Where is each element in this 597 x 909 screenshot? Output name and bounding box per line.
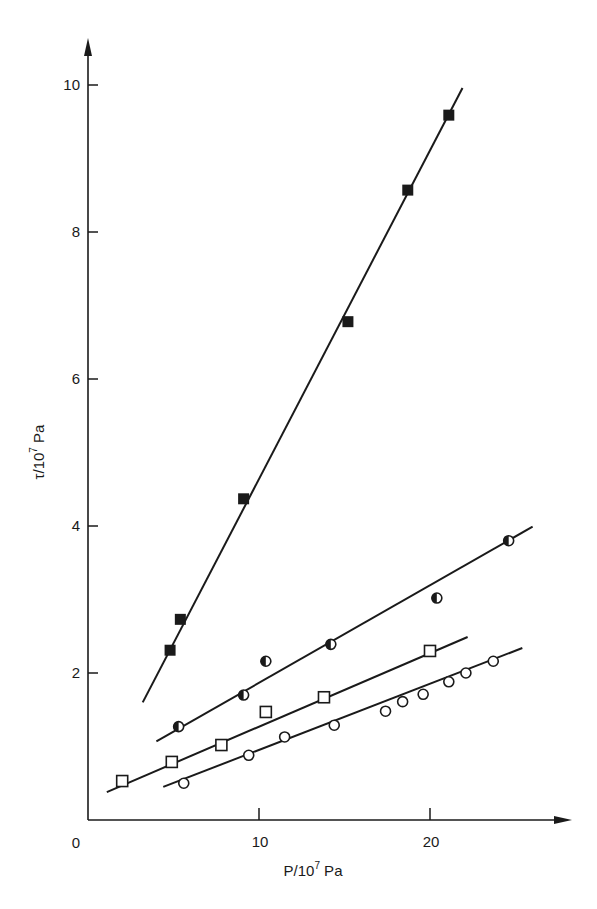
x-axis-title-unit: Pa (320, 862, 343, 879)
y-axis-title: τ/107 Pa (28, 424, 47, 480)
open-square-marker-icon (166, 756, 177, 767)
open-square-marker-icon (117, 776, 128, 787)
y-tick-label: 6 (72, 370, 80, 387)
y-tick-label: 2 (72, 664, 80, 681)
x-axis-title: P/107 Pa (284, 860, 344, 879)
y-axis-arrow-icon (84, 38, 92, 56)
shear-strength-vs-pressure-chart: 24681010200P/107 Paτ/107 Pa (0, 0, 597, 909)
axes (84, 38, 572, 824)
data-markers (117, 110, 514, 789)
fit-line (107, 637, 468, 792)
half-filled-circle-marker-icon (326, 639, 336, 649)
y-tick-label: 10 (63, 76, 80, 93)
origin-label: 0 (72, 834, 80, 851)
half-filled-circle-marker-icon (261, 656, 271, 666)
y-axis-title-base: τ/10 (30, 453, 47, 480)
fit-line (143, 88, 463, 702)
filled-square-marker-icon (175, 614, 186, 625)
fit-lines (107, 88, 533, 792)
x-axis-arrow-icon (554, 816, 572, 824)
filled-square-marker-icon (165, 645, 176, 656)
open-circle-marker-icon (488, 656, 498, 666)
open-circle-marker-icon (418, 689, 428, 699)
fit-line (156, 527, 532, 742)
open-circle-marker-icon (444, 677, 454, 687)
half-filled-circle-marker-icon (504, 536, 514, 546)
half-filled-circle-marker-icon (239, 690, 249, 700)
open-square-marker-icon (425, 645, 436, 656)
half-filled-circle-marker-icon (432, 593, 442, 603)
y-axis-title-unit: Pa (30, 424, 47, 447)
open-square-marker-icon (216, 740, 227, 751)
filled-square-marker-icon (402, 185, 413, 196)
filled-square-marker-icon (342, 316, 353, 327)
y-tick-label: 8 (72, 223, 80, 240)
open-circle-marker-icon (381, 706, 391, 716)
open-circle-marker-icon (280, 732, 290, 742)
axis-labels: 24681010200P/107 Paτ/107 Pa (28, 76, 439, 879)
filled-square-marker-icon (238, 493, 249, 504)
y-tick-label: 4 (72, 517, 80, 534)
filled-square-marker-icon (443, 110, 454, 121)
x-tick-label: 20 (423, 833, 440, 850)
x-axis-title-base: P/10 (284, 862, 315, 879)
x-tick-label: 10 (252, 833, 269, 850)
open-circle-marker-icon (244, 750, 254, 760)
half-filled-circle-marker-icon (174, 722, 184, 732)
open-square-marker-icon (318, 692, 329, 703)
open-circle-marker-icon (179, 778, 189, 788)
open-circle-marker-icon (398, 697, 408, 707)
open-circle-marker-icon (461, 668, 471, 678)
open-square-marker-icon (260, 706, 271, 717)
open-circle-marker-icon (329, 720, 339, 730)
